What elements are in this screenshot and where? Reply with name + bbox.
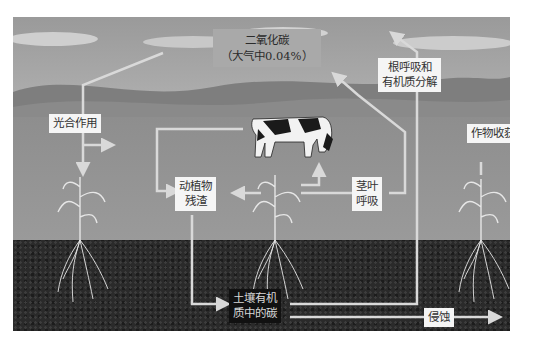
label-erosion: 侵蚀	[424, 308, 454, 327]
arrow-plant-to-cow	[301, 167, 319, 185]
residue-line1: 动植物	[179, 179, 212, 194]
label-co2: 二氧化碳 （大气中0.04%）	[213, 29, 321, 67]
harvest-text: 作物收获	[471, 126, 510, 140]
label-soil-carbon: 土壤有机 质中的碳	[229, 289, 281, 323]
soil-carbon-line2: 质中的碳	[233, 306, 277, 321]
leaf-respiration-line1: 茎叶	[356, 179, 378, 194]
leaf-respiration-line2: 呼吸	[356, 194, 378, 209]
co2-percentage: （大气中0.04%）	[221, 48, 313, 64]
label-residue: 动植物 残渣	[175, 177, 216, 211]
label-harvest: 作物收获	[467, 124, 510, 143]
label-root-respiration: 根呼吸和 有机质分解	[378, 58, 441, 92]
carbon-cycle-diagram: 二氧化碳 （大气中0.04%） 根呼吸和 有机质分解 光合作用 作物收获 动植物…	[13, 17, 510, 331]
soil-carbon-line1: 土壤有机	[233, 291, 277, 306]
root-respiration-line2: 有机质分解	[382, 75, 437, 90]
erosion-text: 侵蚀	[428, 310, 450, 324]
label-leaf-respiration: 茎叶 呼吸	[352, 177, 382, 211]
co2-title: 二氧化碳	[221, 32, 313, 48]
arrow-co2-to-photosynthesis	[83, 53, 163, 172]
root-respiration-line1: 根呼吸和	[382, 60, 437, 75]
arrow-leaf-respiration-to-co2	[335, 75, 405, 193]
label-photosynthesis: 光合作用	[49, 114, 101, 133]
photosynthesis-text: 光合作用	[53, 116, 97, 130]
arrow-residue-to-soil-carbon	[192, 215, 226, 304]
residue-line2: 残渣	[179, 194, 212, 209]
